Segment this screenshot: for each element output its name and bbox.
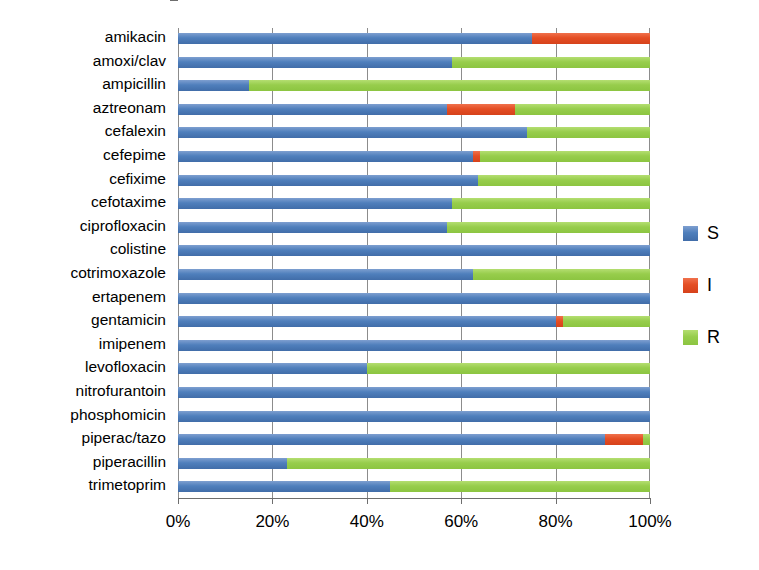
bar-segment-r bbox=[452, 57, 650, 68]
x-tick bbox=[461, 498, 462, 504]
bar-segment-s bbox=[178, 198, 452, 209]
category-label: imipenem bbox=[0, 336, 166, 352]
bar-segment-i bbox=[532, 33, 650, 44]
x-tick bbox=[367, 498, 368, 504]
bar-row bbox=[178, 175, 650, 186]
bar-row bbox=[178, 151, 650, 162]
bar-row bbox=[178, 316, 650, 327]
bar-row bbox=[178, 104, 650, 115]
x-tick-label: 60% bbox=[416, 512, 506, 532]
gridline-20% bbox=[272, 28, 273, 498]
bar-segment-r bbox=[563, 316, 650, 327]
legend-item: S bbox=[683, 222, 753, 274]
legend-item: R bbox=[683, 326, 753, 378]
bar-segment-r bbox=[478, 175, 650, 186]
chart-legend: SIR bbox=[683, 222, 753, 378]
category-label: amoxi/clav bbox=[0, 53, 166, 69]
category-label: gentamicin bbox=[0, 312, 166, 328]
category-label: piperacillin bbox=[0, 454, 166, 470]
bar-row bbox=[178, 458, 650, 469]
x-tick-label: 100% bbox=[605, 512, 695, 532]
bar-row bbox=[178, 411, 650, 422]
bar-segment-i bbox=[473, 151, 480, 162]
bar-segment-i bbox=[556, 316, 563, 327]
legend-swatch-s bbox=[683, 226, 698, 241]
bar-segment-s bbox=[178, 33, 532, 44]
bar-segment-s bbox=[178, 458, 287, 469]
legend-label: I bbox=[707, 274, 712, 296]
bar-segment-s bbox=[178, 387, 650, 398]
bar-segment-s bbox=[178, 340, 650, 351]
x-tick-label: 0% bbox=[133, 512, 223, 532]
category-label: colistine bbox=[0, 241, 166, 257]
category-label: nitrofurantoin bbox=[0, 383, 166, 399]
bar-row bbox=[178, 222, 650, 233]
bar-segment-r bbox=[527, 127, 650, 138]
bar-segment-s bbox=[178, 151, 473, 162]
bar-row bbox=[178, 245, 650, 256]
bar-row bbox=[178, 269, 650, 280]
category-label: cefotaxime bbox=[0, 194, 166, 210]
bar-segment-i bbox=[605, 434, 643, 445]
bar-row bbox=[178, 293, 650, 304]
legend-label: S bbox=[707, 222, 719, 244]
bar-row bbox=[178, 127, 650, 138]
gridline-0% bbox=[178, 28, 179, 498]
bar-segment-s bbox=[178, 434, 605, 445]
category-label: ciprofloxacin bbox=[0, 218, 166, 234]
category-axis-labels: amikacinamoxi/clavampicillinaztreonamcef… bbox=[0, 28, 172, 498]
gridline-100% bbox=[649, 28, 650, 498]
bar-row bbox=[178, 363, 650, 374]
bar-segment-s bbox=[178, 104, 447, 115]
category-label: cefixime bbox=[0, 171, 166, 187]
category-label: cotrimoxazole bbox=[0, 265, 166, 281]
bar-segment-i bbox=[447, 104, 515, 115]
bar-segment-r bbox=[447, 222, 650, 233]
x-axis-line bbox=[178, 498, 651, 499]
bar-segment-r bbox=[515, 104, 650, 115]
antibiogram-chart: amikacinamoxi/clavampicillinaztreonamcef… bbox=[0, 0, 759, 570]
bar-segment-r bbox=[390, 481, 650, 492]
legend-label: R bbox=[707, 326, 720, 348]
bar-row bbox=[178, 340, 650, 351]
category-label: aztreonam bbox=[0, 100, 166, 116]
bar-segment-s bbox=[178, 293, 650, 304]
category-label: piperac/tazo bbox=[0, 430, 166, 446]
x-tick bbox=[272, 498, 273, 504]
x-tick bbox=[650, 498, 651, 504]
bar-row bbox=[178, 198, 650, 209]
gridline-80% bbox=[556, 28, 557, 498]
category-label: cefepime bbox=[0, 147, 166, 163]
bar-segment-r bbox=[473, 269, 650, 280]
bar-segment-s bbox=[178, 411, 650, 422]
category-label: levofloxacin bbox=[0, 359, 166, 375]
x-tick-label: 80% bbox=[511, 512, 601, 532]
x-tick-label: 20% bbox=[227, 512, 317, 532]
legend-swatch-i bbox=[683, 278, 698, 293]
bar-segment-r bbox=[287, 458, 650, 469]
bar-segment-s bbox=[178, 175, 478, 186]
bar-segment-s bbox=[178, 363, 367, 374]
x-tick-label: 40% bbox=[322, 512, 412, 532]
category-label: trimetoprim bbox=[0, 477, 166, 493]
bar-segment-s bbox=[178, 57, 452, 68]
category-label: amikacin bbox=[0, 29, 166, 45]
bar-segment-r bbox=[367, 363, 650, 374]
bar-segment-r bbox=[452, 198, 650, 209]
bar-segment-s bbox=[178, 80, 249, 91]
bar-segment-s bbox=[178, 481, 390, 492]
bar-segment-s bbox=[178, 222, 447, 233]
bar-row bbox=[178, 33, 650, 44]
bar-segment-s bbox=[178, 127, 527, 138]
category-label: ertapenem bbox=[0, 289, 166, 305]
bar-row bbox=[178, 80, 650, 91]
bar-segment-r bbox=[480, 151, 650, 162]
bar-segment-r bbox=[249, 80, 650, 91]
bar-segment-s bbox=[178, 245, 650, 256]
x-tick bbox=[556, 498, 557, 504]
y-axis-origin-tick bbox=[170, 0, 178, 1]
legend-swatch-r bbox=[683, 330, 698, 345]
category-label: ampicillin bbox=[0, 76, 166, 92]
category-label: phosphomicin bbox=[0, 407, 166, 423]
bar-row bbox=[178, 481, 650, 492]
